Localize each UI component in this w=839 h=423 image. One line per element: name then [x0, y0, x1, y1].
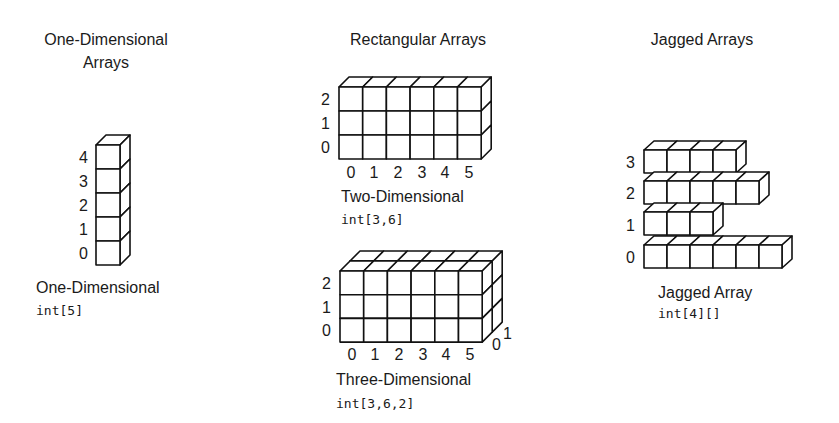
column-label: 5 — [465, 164, 474, 181]
array-cell — [410, 87, 434, 111]
row-label: 1 — [322, 299, 331, 316]
rectangular-section: Rectangular Arrays 2 1 0 0 1 2 3 4 5 Two… — [321, 31, 512, 411]
array-cell — [713, 150, 736, 173]
row-index-labels: 2 1 0 — [322, 275, 331, 339]
array-cell — [96, 193, 120, 217]
array-cell — [387, 318, 411, 342]
array-cell — [736, 245, 759, 268]
row-label: 2 — [322, 275, 331, 292]
one-dimensional-section: One-Dimensional Arrays 4 3 2 1 0 One-Dim… — [36, 31, 168, 318]
depth-label: 0 — [492, 336, 501, 353]
column-label: 4 — [441, 164, 450, 181]
array-cell — [339, 135, 363, 159]
array-cell — [96, 217, 120, 241]
array-cell — [340, 271, 364, 295]
array-cell — [411, 271, 435, 295]
array-cell — [644, 150, 667, 173]
row-label: 2 — [626, 185, 635, 202]
array-cell — [434, 87, 458, 111]
column-label: 0 — [347, 164, 356, 181]
array-cell — [713, 245, 736, 268]
section-title-rectangular: Rectangular Arrays — [350, 31, 486, 48]
array-cell — [339, 87, 363, 111]
array-cell — [340, 295, 364, 319]
row-index-labels: 3 2 1 0 — [626, 154, 635, 266]
array-cell — [459, 271, 483, 295]
array-cell — [364, 318, 388, 342]
column-label: 5 — [466, 346, 475, 363]
array-cell — [411, 295, 435, 319]
jagged-array-figure — [644, 141, 792, 268]
array-cell — [387, 271, 411, 295]
array-cell — [459, 318, 483, 342]
jagged-caption: Jagged Array — [658, 284, 752, 301]
three-dimensional-caption: Three-Dimensional — [336, 371, 471, 388]
depth-label: 1 — [503, 325, 512, 342]
array-cell — [667, 245, 690, 268]
column-label: 3 — [418, 164, 427, 181]
two-dimensional-caption: Two-Dimensional — [341, 188, 464, 205]
row-label: 0 — [79, 245, 88, 262]
array-cell — [363, 111, 387, 135]
row-label: 0 — [321, 139, 330, 156]
array-cell — [435, 318, 459, 342]
array-cell — [690, 181, 713, 204]
array-cell — [96, 169, 120, 193]
array-cell — [667, 181, 690, 204]
array-cell — [340, 318, 364, 342]
column-index-labels: 0 1 2 3 4 5 — [347, 164, 474, 181]
three-dimensional-code: int[3,6,2] — [336, 396, 414, 411]
column-label: 1 — [370, 164, 379, 181]
array-cell — [363, 135, 387, 159]
array-cell — [364, 295, 388, 319]
array-cell — [458, 87, 482, 111]
array-cell — [387, 295, 411, 319]
array-cell — [759, 245, 782, 268]
row-label: 1 — [79, 221, 88, 238]
column-label: 2 — [395, 346, 404, 363]
array-cell — [411, 318, 435, 342]
array-cell — [434, 111, 458, 135]
two-dimensional-array-figure — [339, 77, 491, 159]
array-cell — [435, 295, 459, 319]
array-cell — [410, 135, 434, 159]
array-cell — [690, 150, 713, 173]
array-cell — [410, 111, 434, 135]
row-label: 3 — [626, 154, 635, 171]
array-cell — [386, 111, 410, 135]
array-cell — [435, 271, 459, 295]
array-cell — [644, 245, 667, 268]
row-index-labels: 2 1 0 — [321, 91, 330, 156]
array-cell — [386, 135, 410, 159]
array-cell — [736, 181, 759, 204]
row-label: 1 — [626, 217, 635, 234]
one-dimensional-caption: One-Dimensional — [36, 279, 160, 296]
column-label: 4 — [442, 346, 451, 363]
row-label: 3 — [79, 173, 88, 190]
one-dimensional-code: int[5] — [36, 303, 83, 318]
column-label: 3 — [419, 346, 428, 363]
column-label: 0 — [348, 346, 357, 363]
jagged-section: Jagged Arrays 3 2 1 0 Jagged Array int[4… — [626, 31, 792, 321]
two-dimensional-code: int[3,6] — [341, 212, 404, 227]
array-cell — [458, 111, 482, 135]
array-cell — [458, 135, 482, 159]
array-cell — [339, 111, 363, 135]
section-title-one-dimensional: One-Dimensional — [44, 31, 168, 48]
three-dimensional-array-figure — [340, 251, 502, 342]
column-label: 2 — [394, 164, 403, 181]
column-index-labels: 0 1 2 3 4 5 — [348, 346, 475, 363]
row-index-labels: 4 3 2 1 0 — [79, 149, 88, 262]
array-cell — [434, 135, 458, 159]
row-label: 0 — [626, 249, 635, 266]
array-cell — [386, 87, 410, 111]
section-title-jagged: Jagged Arrays — [651, 31, 753, 48]
array-cell — [96, 241, 120, 265]
jagged-code: int[4][] — [658, 306, 721, 321]
array-cell — [667, 150, 690, 173]
section-title-one-dimensional-line2: Arrays — [83, 54, 129, 71]
row-label: 2 — [79, 197, 88, 214]
row-label: 2 — [321, 91, 330, 108]
array-cell — [713, 181, 736, 204]
array-cell — [459, 295, 483, 319]
